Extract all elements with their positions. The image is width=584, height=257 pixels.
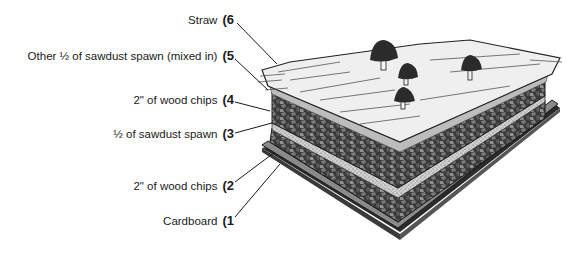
label-cardboard: Cardboard(1	[163, 214, 234, 228]
layer-number: (2	[222, 178, 234, 193]
layer-number: (1	[222, 213, 234, 228]
label-mixed-sawdust: Other ½ of sawdust spawn (mixed in)(5	[28, 49, 234, 63]
label-text: 2" of wood chips	[133, 180, 217, 192]
label-text: 2" of wood chips	[133, 94, 217, 106]
layer-number: (4	[222, 92, 234, 107]
label-text: ½ of sawdust spawn	[113, 128, 217, 140]
label-text: Other ½ of sawdust spawn (mixed in)	[28, 50, 218, 62]
label-text: Cardboard	[163, 215, 217, 227]
label-straw: Straw(6	[188, 13, 234, 27]
layer-number: (3	[222, 126, 234, 141]
label-sawdust-spawn: ½ of sawdust spawn(3	[113, 127, 234, 141]
layer-number: (6	[222, 12, 234, 27]
label-text: Straw	[188, 14, 217, 26]
mushroom-bed-illustration	[0, 0, 584, 257]
label-wood-chips-upper: 2" of wood chips(4	[133, 93, 234, 107]
label-wood-chips-lower: 2" of wood chips(2	[133, 179, 234, 193]
layer-number: (5	[222, 48, 234, 63]
